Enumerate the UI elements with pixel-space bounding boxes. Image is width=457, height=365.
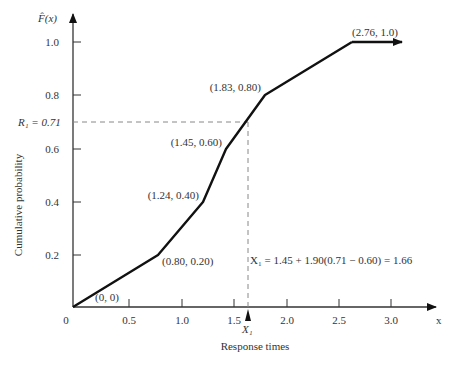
- x-tick-label: 1.0: [175, 314, 189, 326]
- x1-up-arrow-marker: [245, 309, 251, 321]
- point-label: (1.45, 0.60): [171, 136, 223, 149]
- x1-axis-label: X₁: [241, 323, 253, 335]
- x-tick-label: 1.5: [227, 314, 241, 326]
- y-axis-label: Cumulative probability: [12, 153, 24, 256]
- x-tick-label: 2.0: [280, 314, 294, 326]
- y-tick-label: 0.2: [45, 249, 59, 261]
- y-tick-label: 0.8: [45, 89, 59, 101]
- point-label: (0, 0): [95, 291, 119, 304]
- x-axis-label: Response times: [221, 340, 290, 352]
- y-ticks: 0.20.40.60.81.0: [45, 36, 81, 261]
- x-ticks: 00.51.01.52.02.53.0: [63, 299, 398, 326]
- x-tick-label: 0.5: [122, 314, 136, 326]
- y-tick-label: 0.6: [45, 143, 59, 155]
- y-tick-label: 0.4: [45, 196, 59, 208]
- r1-label: R₁ = 0.71: [17, 116, 61, 128]
- y-tick-label: 1.0: [45, 36, 59, 48]
- y-axis-title: F̂(x): [37, 12, 57, 25]
- x1-equation: X₁ = 1.45 + 1.90(0.71 − 0.60) = 1.66: [250, 254, 413, 267]
- point-label: (0.80, 0.20): [162, 255, 214, 268]
- x-tick-label: 0: [63, 314, 69, 326]
- x-tick-label: 3.0: [384, 314, 398, 326]
- point-label: (2.76, 1.0): [352, 26, 398, 39]
- point-label: (1.83, 0.80): [210, 81, 262, 94]
- point-label: (1.24, 0.40): [148, 189, 200, 202]
- x-axis-end-label: x: [436, 314, 442, 326]
- cdf-chart: 0.20.40.60.81.0 00.51.01.52.02.53.0 (0, …: [0, 0, 457, 365]
- x-tick-label: 2.5: [332, 314, 346, 326]
